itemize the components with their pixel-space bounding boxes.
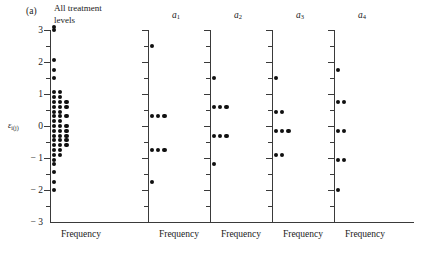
data-point bbox=[52, 188, 56, 192]
data-point bbox=[336, 188, 340, 192]
data-point bbox=[342, 100, 346, 104]
data-point bbox=[342, 129, 346, 133]
data-point bbox=[52, 124, 56, 128]
data-point bbox=[64, 138, 68, 142]
panel-title-a3: a3 bbox=[280, 10, 320, 23]
y-major-tick bbox=[44, 62, 50, 63]
data-point bbox=[52, 129, 56, 133]
y-tick-label-1: 1 bbox=[21, 89, 43, 99]
y-major-tick bbox=[328, 62, 334, 63]
residual-dot-plot-figure: (a) εi(j) − 3− 2− 10123All treatment lev… bbox=[0, 0, 422, 262]
data-point bbox=[52, 95, 56, 99]
data-point bbox=[224, 105, 228, 109]
data-point bbox=[280, 153, 284, 157]
data-point bbox=[64, 124, 68, 128]
data-point bbox=[150, 148, 154, 152]
y-minor-tick bbox=[206, 142, 210, 143]
data-point bbox=[58, 148, 62, 152]
data-point bbox=[52, 114, 56, 118]
data-point bbox=[52, 100, 56, 104]
y-minor-tick bbox=[144, 142, 148, 143]
data-point bbox=[64, 105, 68, 109]
y-major-tick bbox=[266, 126, 272, 127]
data-point bbox=[52, 158, 56, 162]
data-point bbox=[218, 105, 222, 109]
y-major-tick bbox=[44, 126, 50, 127]
y-major-tick bbox=[266, 190, 272, 191]
data-point bbox=[336, 100, 340, 104]
y-major-tick bbox=[44, 94, 50, 95]
data-point bbox=[274, 110, 278, 114]
data-point bbox=[274, 76, 278, 80]
panel-title-all-treatment-levels: All treatment levels bbox=[54, 3, 140, 26]
data-point bbox=[52, 68, 56, 72]
y-minor-tick bbox=[268, 78, 272, 79]
y-minor-tick bbox=[268, 110, 272, 111]
y-minor-tick bbox=[46, 174, 50, 175]
y-tick-label-2: 2 bbox=[21, 57, 43, 67]
data-point bbox=[58, 143, 62, 147]
y-major-tick bbox=[142, 30, 148, 31]
y-tick-label-3: 3 bbox=[21, 25, 43, 35]
y-minor-tick bbox=[268, 174, 272, 175]
data-point bbox=[58, 105, 62, 109]
panel-title-subscript: 3 bbox=[301, 13, 304, 20]
data-point bbox=[52, 143, 56, 147]
data-point bbox=[150, 180, 154, 184]
y-tick-label-0: 0 bbox=[21, 121, 43, 131]
panel-title-subscript: 4 bbox=[363, 13, 366, 20]
data-point bbox=[150, 44, 154, 48]
data-point bbox=[150, 114, 154, 118]
panel-title-a2: a2 bbox=[218, 10, 258, 23]
data-point bbox=[58, 95, 62, 99]
y-major-tick bbox=[142, 94, 148, 95]
data-point bbox=[156, 148, 160, 152]
y-minor-tick bbox=[206, 46, 210, 47]
y-minor-tick bbox=[144, 206, 148, 207]
x-axis-label-all-treatment-levels: Frequency bbox=[38, 229, 124, 239]
panel-title-subscript: 2 bbox=[239, 13, 242, 20]
data-point bbox=[286, 129, 290, 133]
data-point bbox=[64, 134, 68, 138]
y-major-tick bbox=[266, 30, 272, 31]
panel-title-a4: a4 bbox=[342, 10, 382, 23]
y-major-tick bbox=[142, 158, 148, 159]
data-point bbox=[64, 114, 68, 118]
y-minor-tick bbox=[330, 206, 334, 207]
y-minor-tick bbox=[268, 142, 272, 143]
data-point bbox=[212, 134, 216, 138]
data-point bbox=[52, 110, 56, 114]
y-major-tick bbox=[44, 30, 50, 31]
y-minor-tick bbox=[46, 142, 50, 143]
y-major-tick bbox=[204, 30, 210, 31]
y-minor-tick bbox=[330, 174, 334, 175]
data-point bbox=[58, 124, 62, 128]
y-tick-label-neg3: − 3 bbox=[21, 217, 43, 227]
y-minor-tick bbox=[46, 206, 50, 207]
y-minor-tick bbox=[330, 110, 334, 111]
y-minor-tick bbox=[206, 174, 210, 175]
data-point bbox=[52, 105, 56, 109]
y-major-tick bbox=[328, 94, 334, 95]
y-major-tick bbox=[204, 94, 210, 95]
data-point bbox=[52, 119, 56, 123]
data-point bbox=[52, 134, 56, 138]
y-axis-caption: εi(j) bbox=[8, 120, 19, 131]
y-minor-tick bbox=[330, 78, 334, 79]
y-minor-tick bbox=[46, 110, 50, 111]
data-point bbox=[58, 90, 62, 94]
panel-title-subscript: 1 bbox=[177, 13, 180, 20]
x-axis-label-a4: Frequency bbox=[322, 229, 408, 239]
y-minor-tick bbox=[206, 110, 210, 111]
data-point bbox=[274, 129, 278, 133]
data-point bbox=[218, 134, 222, 138]
data-point bbox=[52, 148, 56, 152]
data-point bbox=[52, 28, 56, 32]
y-major-tick bbox=[142, 62, 148, 63]
y-minor-tick bbox=[46, 78, 50, 79]
data-point bbox=[52, 153, 56, 157]
data-point bbox=[64, 129, 68, 133]
y-major-tick bbox=[204, 158, 210, 159]
y-major-tick bbox=[142, 126, 148, 127]
y-axis-spine-a3 bbox=[272, 30, 273, 222]
